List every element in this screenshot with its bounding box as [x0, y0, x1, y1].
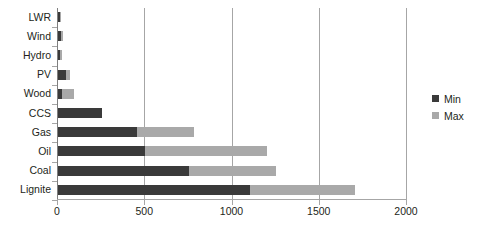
legend-label-max: Max	[444, 110, 464, 122]
y-tick	[52, 66, 57, 67]
bar-max	[145, 146, 267, 156]
category-label-gas: Gas	[0, 127, 51, 138]
category-label-wind: Wind	[0, 31, 51, 42]
bar-chart: LWRWindHydroPVWoodCCSGasOilCoalLignite 0…	[0, 0, 481, 233]
bar-min	[58, 12, 60, 22]
category-label-lwr: LWR	[0, 12, 51, 23]
y-tick	[52, 85, 57, 86]
bar-max	[60, 12, 61, 22]
bar-max	[62, 89, 73, 99]
y-tick	[52, 104, 57, 105]
bar-row	[58, 142, 407, 161]
bar-row	[58, 27, 407, 46]
category-label-hydro: Hydro	[0, 50, 51, 61]
bar-min	[58, 146, 145, 156]
y-tick	[52, 27, 57, 28]
plot-area	[57, 8, 406, 200]
bar-max	[189, 166, 276, 176]
bar-row	[58, 123, 407, 142]
y-tick	[52, 123, 57, 124]
category-label-ccs: CCS	[0, 108, 51, 119]
bar-min	[58, 166, 189, 176]
legend-swatch-max	[432, 112, 439, 119]
y-tick	[52, 46, 57, 47]
x-tick-label: 1500	[307, 205, 330, 217]
bar-min	[58, 185, 250, 195]
category-label-coal: Coal	[0, 165, 51, 176]
bar-row	[58, 85, 407, 104]
legend-item-max: Max	[432, 107, 464, 124]
legend-swatch-min	[432, 95, 439, 102]
bar-max	[60, 50, 63, 60]
x-tick-label: 0	[54, 205, 60, 217]
bar-row	[58, 46, 407, 65]
y-tick	[52, 142, 57, 143]
category-label-oil: Oil	[0, 146, 51, 157]
bar-min	[58, 70, 66, 80]
legend-label-min: Min	[444, 93, 461, 105]
bar-max	[66, 70, 70, 80]
bar-row	[58, 8, 407, 27]
bar-row	[58, 162, 407, 181]
bar-max	[250, 185, 355, 195]
y-tick	[52, 162, 57, 163]
chart-legend: Min Max	[432, 90, 464, 124]
y-tick	[52, 181, 57, 182]
bar-max	[137, 127, 195, 137]
x-tick-label: 500	[135, 205, 153, 217]
category-label-pv: PV	[0, 69, 51, 80]
category-label-lignite: Lignite	[0, 184, 51, 195]
bar-min	[58, 108, 102, 118]
bar-min	[58, 89, 62, 99]
bar-row	[58, 104, 407, 123]
legend-item-min: Min	[432, 90, 464, 107]
bar-min	[58, 31, 61, 41]
bar-min	[58, 127, 137, 137]
category-label-wood: Wood	[0, 88, 51, 99]
bar-max	[61, 31, 64, 41]
bar-row	[58, 66, 407, 85]
x-tick-label: 2000	[394, 205, 417, 217]
bar-row	[58, 181, 407, 200]
bar-min	[58, 50, 60, 60]
x-tick-label: 1000	[220, 205, 243, 217]
